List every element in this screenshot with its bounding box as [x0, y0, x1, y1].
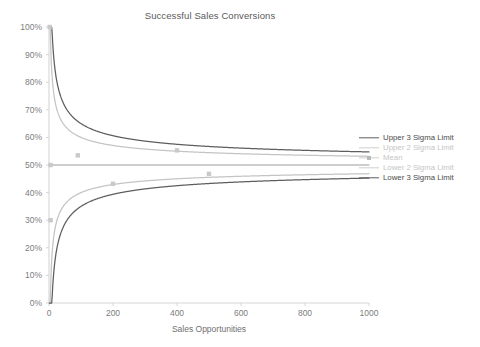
y-tick-label: 30%	[8, 215, 42, 225]
legend-item-label: Lower 2 Sigma Limit	[379, 163, 454, 173]
legend-item-label: Mean	[379, 153, 403, 163]
x-tick-label: 0	[47, 308, 52, 318]
legend-line-icon	[359, 133, 379, 143]
x-axis-title: Sales Opportunities	[49, 324, 369, 334]
data-point-marker	[76, 153, 80, 157]
legend-item[interactable]: Mean	[359, 153, 403, 163]
y-tick-label: 70%	[8, 105, 42, 115]
y-tick-label: 80%	[8, 77, 42, 87]
data-point-marker	[47, 25, 51, 29]
series-line	[49, 174, 369, 303]
legend-item[interactable]: Upper 3 Sigma Limit	[359, 133, 454, 143]
x-tick-label: 600	[234, 308, 248, 318]
chart-title: Successful Sales Conversions	[0, 10, 420, 21]
chart-screenshot: Successful Sales Conversions 0%10%20%30%…	[0, 0, 480, 347]
y-tick-label: 90%	[8, 50, 42, 60]
plot-area	[49, 27, 369, 303]
data-point-marker	[48, 163, 52, 167]
series-line	[49, 27, 369, 156]
data-point-marker	[111, 182, 115, 186]
x-tick-label: 400	[170, 308, 184, 318]
y-axis-tick-labels: 0%10%20%30%40%50%60%70%80%90%100%	[8, 27, 42, 303]
legend-line-icon	[359, 163, 379, 173]
x-tick-label: 800	[298, 308, 312, 318]
legend-item[interactable]: Lower 3 Sigma Limit	[359, 173, 454, 183]
legend-item[interactable]: Lower 2 Sigma Limit	[359, 163, 454, 173]
legend-dot-icon	[359, 153, 379, 163]
x-tick-label: 200	[106, 308, 120, 318]
legend-item-label: Lower 3 Sigma Limit	[379, 173, 454, 183]
legend-item-label: Upper 3 Sigma Limit	[379, 133, 454, 143]
y-tick-label: 50%	[8, 160, 42, 170]
data-point-marker	[48, 218, 52, 222]
y-tick-label: 100%	[8, 22, 42, 32]
legend-item[interactable]: Upper 2 Sigma Limit	[359, 143, 454, 153]
legend-line-icon	[359, 143, 379, 153]
data-point-marker	[207, 172, 211, 176]
plot-svg	[49, 27, 369, 303]
data-point-marker	[175, 148, 179, 152]
y-tick-label: 10%	[8, 270, 42, 280]
y-tick-label: 40%	[8, 188, 42, 198]
x-axis-tick-labels: 02004006008001000	[49, 308, 369, 322]
y-tick-label: 0%	[8, 298, 42, 308]
y-tick-label: 20%	[8, 243, 42, 253]
y-tick-label: 60%	[8, 132, 42, 142]
series-line	[49, 27, 369, 152]
x-tick-label: 1000	[360, 308, 379, 318]
legend-line-icon	[359, 173, 379, 183]
series-line	[49, 178, 369, 303]
legend-item-label: Upper 2 Sigma Limit	[379, 143, 454, 153]
